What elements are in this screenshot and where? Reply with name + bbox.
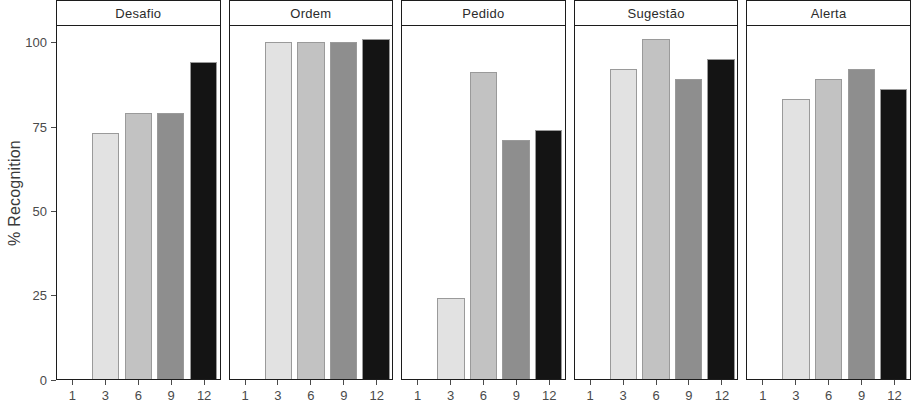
facet-panels: Desafio136912Ordem136912Pedido136912Suge…: [56, 0, 911, 416]
x-axis-tick: 3: [90, 380, 120, 403]
x-axis-tick: 3: [781, 380, 811, 403]
x-axis-tick: 6: [814, 380, 844, 403]
bar: [265, 42, 292, 379]
bar: [880, 89, 907, 379]
x-axis-tick-label: 1: [575, 388, 605, 403]
plot-area: [229, 26, 394, 380]
x-axis-tick-label: 9: [674, 388, 704, 403]
x-axis-tick: 9: [156, 380, 186, 403]
x-axis: 136912: [401, 380, 566, 416]
x-axis-tick-mark: [762, 380, 763, 385]
x-axis-tick-mark: [721, 380, 722, 385]
bar: [642, 39, 669, 380]
y-axis-tick-label: 25: [33, 288, 47, 303]
bar: [815, 79, 842, 379]
x-axis-tick-label: 9: [156, 388, 186, 403]
plot-inner: [402, 26, 565, 379]
facet-strip-label: Desafio: [115, 6, 161, 21]
x-axis-tick-mark: [828, 380, 829, 385]
x-axis-tick-label: 6: [468, 388, 498, 403]
x-axis-tick-label: 1: [57, 388, 87, 403]
x-axis-tick-label: 9: [847, 388, 877, 403]
x-axis-tick-label: 3: [781, 388, 811, 403]
x-axis-tick-label: 9: [501, 388, 531, 403]
x-axis-tick-mark: [623, 380, 624, 385]
x-axis-tick-mark: [204, 380, 205, 385]
x-axis-tick-label: 1: [748, 388, 778, 403]
x-axis-tick-label: 6: [123, 388, 153, 403]
y-axis-tick-label: 75: [33, 120, 47, 135]
x-axis-tick-mark: [417, 380, 418, 385]
bar: [190, 62, 217, 379]
x-axis-tick: 6: [296, 380, 326, 403]
x-axis-tick: 6: [468, 380, 498, 403]
x-axis-tick: 3: [436, 380, 466, 403]
x-axis-tick-label: 12: [362, 388, 392, 403]
facet-panel-ordem: Ordem136912: [229, 0, 394, 416]
x-axis-tick-label: 9: [329, 388, 359, 403]
x-axis-tick-label: 3: [263, 388, 293, 403]
x-axis-tick-mark: [245, 380, 246, 385]
bar: [535, 130, 562, 379]
facet-strip: Ordem: [229, 0, 394, 26]
x-axis-tick-label: 12: [534, 388, 564, 403]
plot-area: [401, 26, 566, 380]
facet-strip: Alerta: [746, 0, 911, 26]
x-axis-tick: 12: [362, 380, 392, 403]
plot-area: [746, 26, 911, 380]
faceted-bar-chart: % Recognition 0255075100 Desafio136912Or…: [0, 0, 911, 416]
x-axis-tick-mark: [138, 380, 139, 385]
x-axis-tick: 9: [674, 380, 704, 403]
y-axis-tick-label: 50: [33, 204, 47, 219]
x-axis-tick-mark: [450, 380, 451, 385]
facet-strip-label: Ordem: [290, 6, 331, 21]
x-axis-tick: 12: [707, 380, 737, 403]
bar: [470, 72, 497, 379]
y-axis-tick: 75: [33, 120, 56, 134]
x-axis-tick-label: 3: [436, 388, 466, 403]
x-axis-tick-mark: [795, 380, 796, 385]
facet-panel-desafio: Desafio136912: [56, 0, 221, 416]
bar: [610, 69, 637, 379]
x-axis-tick: 1: [403, 380, 433, 403]
x-axis-tick-label: 12: [880, 388, 910, 403]
x-axis-tick: 6: [123, 380, 153, 403]
bar: [157, 113, 184, 379]
y-axis-tick: 0: [40, 373, 56, 387]
plot-area: [56, 26, 221, 380]
facet-panel-pedido: Pedido136912: [401, 0, 566, 416]
bar: [707, 59, 734, 379]
x-axis-tick-mark: [656, 380, 657, 385]
bar: [675, 79, 702, 379]
x-axis-tick: 9: [329, 380, 359, 403]
x-axis-tick-mark: [483, 380, 484, 385]
x-axis-tick: 3: [263, 380, 293, 403]
facet-strip-label: Alerta: [811, 6, 847, 21]
plot-inner: [57, 26, 220, 379]
facet-panel-alerta: Alerta136912: [746, 0, 911, 416]
x-axis-tick-label: 12: [189, 388, 219, 403]
y-axis-tick-label: 0: [40, 373, 47, 388]
plot-inner: [575, 26, 738, 379]
facet-strip-label: Sugestão: [627, 6, 684, 21]
x-axis-tick-label: 6: [641, 388, 671, 403]
y-axis-tick-label: 100: [25, 35, 47, 50]
x-axis-tick-label: 1: [403, 388, 433, 403]
x-axis-tick-mark: [549, 380, 550, 385]
x-axis-tick-mark: [861, 380, 862, 385]
facet-strip: Pedido: [401, 0, 566, 26]
x-axis-tick-mark: [894, 380, 895, 385]
x-axis-tick-mark: [277, 380, 278, 385]
bar: [125, 113, 152, 379]
x-axis-tick-mark: [310, 380, 311, 385]
y-axis-tick: 25: [33, 289, 56, 303]
x-axis-tick-mark: [516, 380, 517, 385]
bar: [92, 133, 119, 379]
x-axis-tick: 12: [189, 380, 219, 403]
x-axis-tick: 3: [608, 380, 638, 403]
x-axis: 136912: [746, 380, 911, 416]
bar: [848, 69, 875, 379]
x-axis-tick-mark: [171, 380, 172, 385]
x-axis-tick: 1: [230, 380, 260, 403]
bar: [362, 39, 389, 380]
